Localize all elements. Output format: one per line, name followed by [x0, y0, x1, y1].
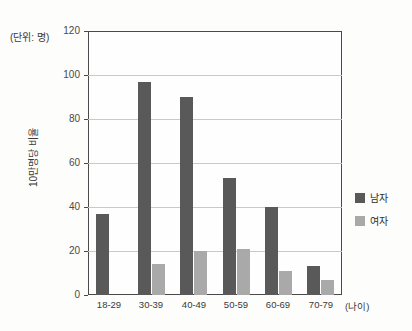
bar: [279, 271, 292, 295]
y-tick-label: 0: [40, 290, 80, 300]
y-tick-mark: [84, 31, 88, 32]
legend-item: 여자: [355, 213, 388, 228]
legend-swatch-icon: [355, 193, 365, 203]
x-tick-label: 40-49: [173, 299, 215, 310]
bar: [265, 207, 278, 295]
y-tick-label: 120: [40, 26, 80, 36]
gridline: [88, 119, 342, 120]
bar: [194, 251, 207, 295]
x-tick-label: 18-29: [88, 299, 130, 310]
x-axis-unit-label: (나이): [345, 299, 369, 313]
bar: [223, 178, 236, 295]
y-tick-label: 80: [40, 114, 80, 124]
legend-swatch-icon: [355, 216, 365, 226]
x-tick-label: 60-69: [257, 299, 299, 310]
y-axis-title: 10만명당 비율: [25, 108, 40, 208]
y-tick-label: 60: [40, 158, 80, 168]
y-tick-label: 40: [40, 202, 80, 212]
bar: [307, 266, 320, 295]
bar: [138, 82, 151, 295]
gridline: [88, 75, 342, 76]
x-tick-label: 50-59: [215, 299, 257, 310]
y-tick-mark: [84, 295, 88, 296]
legend-item: 남자: [355, 190, 388, 205]
bar: [321, 280, 334, 295]
bar: [96, 214, 109, 295]
legend-label: 여자: [370, 213, 388, 228]
gridline: [88, 207, 342, 208]
x-tick-label: 70-79: [300, 299, 342, 310]
bar: [237, 249, 250, 295]
gridline: [88, 251, 342, 252]
legend-label: 남자: [370, 190, 388, 205]
y-tick-label: 100: [40, 70, 80, 80]
legend: 남자여자: [355, 190, 388, 236]
bar-chart-figure: (단위: 명) 10만명당 비율 020406080100120 18-2930…: [0, 0, 412, 331]
bar: [180, 97, 193, 295]
x-tick-label: 30-39: [130, 299, 172, 310]
y-tick-label: 20: [40, 246, 80, 256]
bar: [152, 264, 165, 295]
gridline: [88, 163, 342, 164]
